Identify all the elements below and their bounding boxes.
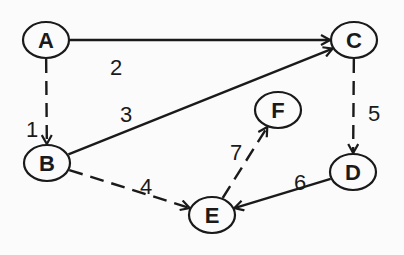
edge-label-d-e: 6 <box>294 170 306 195</box>
node-d: D <box>330 154 376 190</box>
node-d-label: D <box>345 160 361 185</box>
node-a-label: A <box>38 28 54 53</box>
node-b-label: B <box>39 151 55 176</box>
edge-label-c-d: 5 <box>368 101 380 126</box>
edge-label-b-c: 3 <box>120 102 132 127</box>
edge-c-d <box>353 59 354 153</box>
node-c: C <box>331 22 377 58</box>
graph-svg: 1234567 ABCDEF <box>0 0 404 255</box>
node-f-label: F <box>271 98 284 123</box>
node-e: E <box>189 197 235 233</box>
edge-a-b <box>46 59 47 144</box>
node-a: A <box>23 22 69 58</box>
graph-diagram: 1234567 ABCDEF <box>0 0 404 255</box>
edge-d-e <box>234 179 330 208</box>
node-f: F <box>255 92 301 128</box>
edge-label-e-f: 7 <box>230 140 242 165</box>
node-e-label: E <box>205 203 220 228</box>
edge-label-a-b: 1 <box>26 117 38 142</box>
node-c-label: C <box>346 28 362 53</box>
edge-label-a-c: 2 <box>110 55 122 80</box>
edge-label-b-e: 4 <box>140 174 152 199</box>
edge-b-e <box>69 170 189 208</box>
node-b: B <box>24 145 70 181</box>
